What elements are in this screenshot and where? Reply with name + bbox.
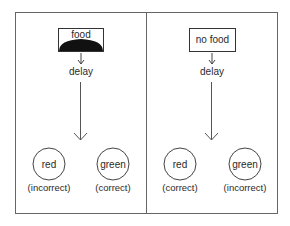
diagram: food delay red (incorrect) green (correc…: [0, 0, 290, 226]
delay-label: delay: [69, 66, 93, 77]
choice-outcome: (incorrect): [224, 182, 267, 193]
panel-no-food: no food delay red (correct) green (incor…: [162, 29, 266, 194]
stimulus-box-food: food: [59, 29, 104, 52]
choice-outcome: (correct): [162, 182, 197, 193]
choice-green: green (incorrect): [224, 148, 267, 193]
choice-label: red: [42, 159, 56, 170]
choice-red: red (incorrect): [28, 148, 71, 193]
delay-label: delay: [200, 66, 224, 77]
stimulus-box-no-food: no food: [190, 29, 236, 52]
choice-red: red (correct): [162, 148, 197, 193]
choice-outcome: (incorrect): [28, 182, 71, 193]
choice-label: green: [232, 159, 258, 170]
stimulus-label: no food: [196, 34, 229, 45]
panel-food: food delay red (incorrect) green (correc…: [28, 29, 131, 194]
choice-green: green (correct): [95, 148, 130, 193]
long-arrow-down-icon: [74, 82, 87, 140]
stimulus-label: food: [71, 29, 90, 40]
choice-label: green: [100, 159, 126, 170]
choice-outcome: (correct): [95, 182, 130, 193]
arrow-down-icon: [209, 53, 215, 64]
arrow-down-icon: [78, 53, 84, 64]
choice-label: red: [173, 159, 187, 170]
long-arrow-down-icon: [205, 82, 218, 140]
